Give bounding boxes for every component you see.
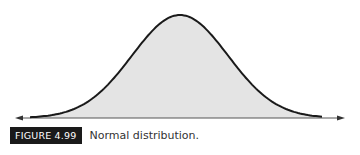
normal-distribution-figure — [0, 0, 360, 125]
figure-caption: FIGURE 4.99 Normal distribution. — [10, 127, 199, 144]
left-arrow-icon — [15, 116, 23, 121]
right-arrow-icon — [337, 116, 345, 121]
figure-label: FIGURE 4.99 — [10, 127, 82, 144]
curve-area — [30, 15, 322, 118]
caption-text: Normal distribution. — [90, 129, 199, 142]
